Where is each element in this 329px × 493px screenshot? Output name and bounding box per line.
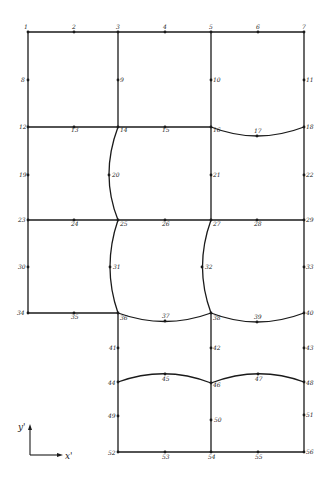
mesh-node — [303, 414, 306, 417]
mesh-node — [210, 126, 213, 129]
node-label: 24 — [70, 220, 79, 227]
mesh-node — [164, 31, 167, 34]
node-label: 12 — [19, 123, 27, 130]
mesh-node — [303, 219, 306, 222]
node-label: 33 — [306, 263, 314, 270]
mesh-node — [27, 126, 30, 129]
node-label: 37 — [162, 312, 170, 319]
fe-mesh-diagram: 1234567891011121314151617181920212223242… — [0, 0, 329, 493]
node-label: 52 — [108, 449, 116, 456]
mesh-node — [117, 347, 120, 350]
mesh-node — [210, 382, 213, 385]
node-label: 56 — [306, 448, 314, 455]
node-label: 35 — [71, 313, 79, 320]
node-label: 4 — [162, 23, 167, 30]
mesh-node — [109, 266, 112, 269]
mesh-node — [117, 381, 120, 384]
node-label: 50 — [214, 416, 222, 423]
node-label: 6 — [256, 23, 260, 30]
mesh-node — [303, 451, 306, 454]
node-label: 48 — [305, 379, 314, 386]
node-label: 29 — [305, 216, 314, 223]
node-label: 31 — [113, 263, 121, 270]
mesh-node — [117, 451, 120, 454]
node-label: 43 — [305, 344, 314, 351]
node-label: 46 — [212, 381, 221, 388]
node-labels: 1234567891011121314151617181920212223242… — [17, 23, 314, 460]
node-label: 27 — [212, 220, 221, 227]
y-axis-label: y' — [17, 422, 26, 432]
node-label: 49 — [107, 412, 116, 419]
node-label: 44 — [107, 379, 116, 386]
node-label: 1 — [24, 23, 28, 30]
mesh-node — [256, 321, 259, 324]
mesh-node — [27, 79, 30, 82]
node-label: 21 — [212, 171, 221, 178]
node-label: 51 — [306, 411, 314, 418]
node-label: 8 — [21, 76, 25, 83]
mesh-node — [210, 31, 213, 34]
node-label: 40 — [305, 309, 314, 316]
node-label: 13 — [71, 126, 79, 133]
mesh-node — [303, 381, 306, 384]
mesh-node — [210, 174, 213, 177]
node-label: 2 — [71, 23, 76, 30]
mesh-node — [303, 31, 306, 34]
mesh-node — [210, 219, 213, 222]
mesh-node — [27, 31, 30, 34]
node-label: 26 — [161, 220, 170, 227]
mesh-node — [27, 219, 30, 222]
node-label: 38 — [213, 314, 221, 321]
x-axis-arrow-icon — [57, 453, 63, 457]
node-label: 19 — [19, 171, 27, 178]
node-label: 30 — [18, 263, 26, 270]
node-label: 54 — [208, 453, 216, 460]
mesh-node — [303, 174, 306, 177]
mesh-node — [303, 312, 306, 315]
mesh-node — [210, 312, 213, 315]
mesh-node — [210, 347, 213, 350]
mesh-node — [117, 312, 120, 315]
node-label: 28 — [253, 220, 262, 227]
node-label: 42 — [212, 344, 221, 351]
node-label: 16 — [213, 126, 221, 133]
node-label: 17 — [254, 127, 262, 134]
node-label: 32 — [205, 263, 213, 270]
node-label: 47 — [254, 375, 263, 382]
mesh-node — [164, 320, 167, 323]
mesh-node — [303, 126, 306, 129]
mesh-node — [117, 79, 120, 82]
node-label: 25 — [119, 220, 128, 227]
mesh-node — [27, 266, 30, 269]
mesh-node — [117, 219, 120, 222]
node-label: 14 — [120, 126, 128, 133]
node-label: 10 — [213, 76, 221, 83]
mesh-node — [117, 31, 120, 34]
node-label: 39 — [254, 313, 262, 320]
node-label: 45 — [161, 375, 170, 382]
mesh-node — [201, 266, 204, 269]
node-label: 53 — [162, 453, 170, 460]
node-label: 34 — [17, 309, 25, 316]
mesh-node — [210, 79, 213, 82]
node-label: 9 — [120, 76, 124, 83]
node-label: 18 — [306, 123, 314, 130]
node-label: 7 — [302, 23, 306, 30]
node-label: 22 — [305, 171, 314, 178]
mesh-node — [108, 174, 111, 177]
node-label: 55 — [255, 453, 263, 460]
node-label: 41 — [108, 344, 117, 351]
mesh-node — [303, 347, 306, 350]
y-axis-arrow-icon — [28, 424, 32, 430]
node-label: 36 — [120, 314, 128, 321]
node-label: 23 — [17, 216, 26, 223]
mesh-node — [117, 126, 120, 129]
mesh-node — [303, 79, 306, 82]
mesh-node — [73, 31, 76, 34]
mesh-node — [303, 266, 306, 269]
node-label: 15 — [162, 126, 170, 133]
node-label: 11 — [306, 76, 314, 83]
x-axis-label: x' — [65, 451, 73, 461]
mesh-nodes — [27, 31, 306, 454]
coordinate-axes — [30, 427, 59, 455]
